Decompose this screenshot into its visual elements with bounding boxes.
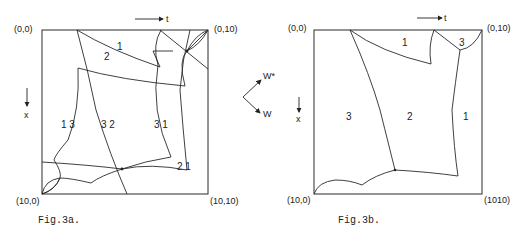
fig3a-region-label: 2 1 — [177, 161, 191, 172]
fig3b-region-label: 1 — [463, 111, 469, 122]
fig3a-axis-x-label: x — [24, 110, 29, 120]
fig3b-axis-t-label: t — [444, 13, 447, 23]
w-star-label: W* — [263, 71, 275, 81]
fig3a-node-junction — [186, 50, 189, 53]
fig3a-corner-top-left: (0,0) — [14, 24, 33, 34]
fig3b-curve-2-1 — [395, 50, 460, 176]
fig3b-region-label: 3 — [459, 37, 465, 48]
fig3a-region-label: 2 — [104, 51, 110, 62]
fig3b-region-label: 1 — [402, 37, 408, 48]
fig3a-curve-upper-loop — [78, 51, 187, 86]
fig3a-diag-2 — [187, 30, 208, 51]
fig3a-corner-top-right: (0,10) — [214, 24, 238, 34]
fig3b-corner-bottom-right: (1010) — [484, 195, 510, 205]
fig3a-corner-bottom-left: (10,0) — [16, 196, 40, 206]
w-star-arrow-icon — [243, 80, 261, 97]
fig3b-curve-top-3 — [434, 30, 482, 50]
fig3b-node-center — [394, 169, 397, 172]
fig3a-region-label: 1 3 — [61, 119, 75, 130]
fig3a-region-label: 1 — [117, 41, 123, 52]
fig3b-diagram: 1 3 3 2 1 (0,0) (0,10) (10,0) (1010) t x… — [287, 13, 511, 226]
fig3a-curve-1-3 — [54, 68, 78, 160]
fig3b-region-label: 3 — [346, 111, 352, 122]
fig3b-corner-top-left: (0,0) — [288, 23, 307, 33]
direction-legend: W* W — [243, 71, 275, 119]
fig3a-diag-1 — [160, 30, 208, 69]
fig3a-node-center — [121, 168, 124, 171]
fig3a-corner-bottom-right: (10,10) — [210, 196, 239, 206]
fig3a-region-label: 3 1 — [154, 119, 168, 130]
figure-canvas: 1 2 1 3 3 2 3 1 2 1 (0,0) (0,10) (10,0) … — [0, 0, 528, 239]
fig3a-diagram: 1 2 1 3 3 2 3 1 2 1 (0,0) (0,10) (10,0) … — [14, 14, 239, 226]
fig3a-small-lens — [42, 178, 60, 194]
w-label: W — [263, 109, 272, 119]
fig3b-corner-top-right: (0,10) — [487, 23, 511, 33]
fig3a-region-label: 3 2 — [101, 119, 115, 130]
fig3b-region-label: 2 — [407, 111, 413, 122]
fig3b-caption: Fig.3b. — [338, 215, 380, 226]
fig3a-axis-t-label: t — [166, 14, 169, 24]
w-arrow-icon — [243, 97, 260, 113]
fig3b-corner-bottom-left: (10,0) — [287, 195, 311, 205]
fig3b-axis-x-label: x — [296, 114, 301, 124]
fig3b-curve-bottom — [314, 170, 395, 194]
fig3a-caption: Fig.3a. — [38, 215, 80, 226]
